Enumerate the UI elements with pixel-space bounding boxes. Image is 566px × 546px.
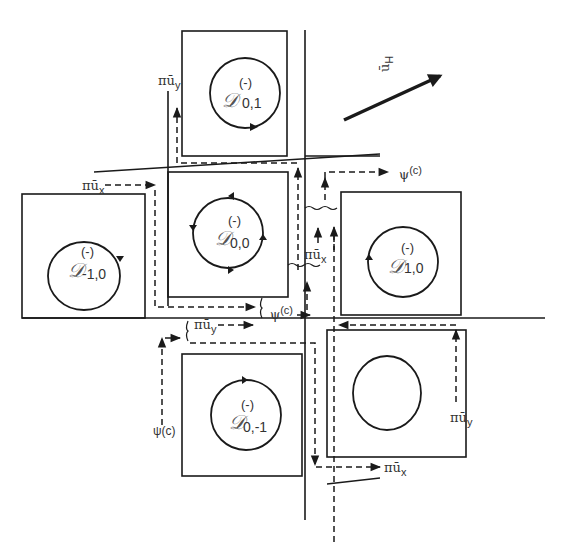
circulation-arrow [365, 254, 373, 260]
brace-mark [187, 321, 189, 341]
domain-sup: (-) [81, 245, 94, 258]
flux-label-psi-c-bottom: ψ(c) [153, 425, 176, 437]
circulation-arrow [242, 376, 248, 384]
vortex-circle-0-1 [210, 58, 280, 128]
domain-sup: (-) [239, 76, 252, 89]
vortex-circle-0-minus1 [211, 380, 281, 450]
circulation-arrow [259, 234, 267, 240]
subscript: x [321, 253, 327, 265]
flux-label-pi-ux-bottom: πūx [384, 461, 406, 478]
subscript: y [211, 323, 217, 335]
u-symbol: ū [393, 460, 401, 475]
psi-symbol: ψ [399, 167, 409, 182]
domain-symbol: 𝒟 [222, 90, 238, 110]
pi-symbol: π [304, 247, 313, 262]
circulation-arrow [189, 225, 197, 231]
u-symbol: ū [91, 178, 99, 193]
u-symbol: ū [313, 247, 321, 262]
flux-label-pi-ux-center: πūx [304, 248, 326, 265]
brace-mark [261, 298, 263, 318]
flux-label-pi-ux-left: πūx [82, 179, 104, 196]
subscript: x [99, 184, 105, 196]
superscript: (c) [409, 164, 422, 176]
wavy-separator [305, 207, 337, 210]
flux-label-psi-c-top: ψ(c) [399, 165, 422, 181]
domain-sub: 0,-1 [243, 420, 267, 434]
domain-sub: 0,0 [230, 236, 249, 250]
u-symbol: ū [203, 317, 211, 332]
domain-symbol: 𝒟 [388, 256, 404, 276]
u-symbol: ū [459, 410, 467, 425]
flux-path-uy-top [177, 108, 297, 163]
domain-symbol: 𝒟 [215, 228, 231, 248]
uh-vector-arrow [344, 76, 440, 120]
domain-sup: (-) [241, 398, 254, 411]
cell-box-1-minus1 [327, 330, 466, 457]
domain-sup: (-) [401, 241, 414, 254]
domain-sub: 1,0 [404, 261, 423, 275]
subscript: y [175, 79, 181, 91]
pi-symbol: π [82, 178, 91, 193]
domain-sub: -1,0 [82, 267, 106, 281]
domain-sup: (-) [228, 214, 241, 227]
pi-symbol: π [450, 410, 459, 425]
pi-symbol: π [158, 73, 167, 88]
flux-label-pi-uy-center: πūy [194, 318, 216, 335]
subscript: y [467, 416, 473, 428]
flux-label-psi-c-center: ψ(c) [270, 305, 293, 321]
domain-sub: 0,1 [242, 96, 261, 110]
uh-sub: H [383, 56, 395, 64]
subscript: x [401, 466, 407, 478]
flux-path-psi-top [325, 172, 388, 178]
psi-symbol: ψ [270, 307, 280, 322]
superscript: (c) [280, 304, 293, 316]
flux-label-pi-uy-top: πūy [158, 74, 180, 91]
u-symbol: ū [167, 73, 175, 88]
edge [327, 478, 380, 484]
circulation-arrow [250, 123, 258, 131]
pi-symbol: π [194, 317, 203, 332]
uh-base: ū [377, 64, 392, 72]
uh-vector-label: ūH [378, 56, 395, 72]
flux-label-pi-uy-right: πūy [450, 411, 472, 428]
circle-1-minus1 [353, 356, 421, 430]
pi-symbol: π [384, 460, 393, 475]
